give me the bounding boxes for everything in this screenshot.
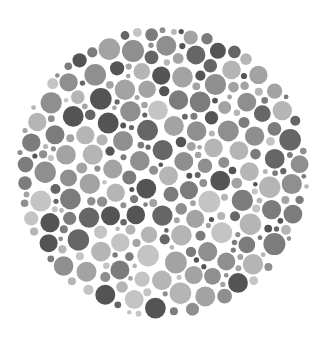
plate-dot xyxy=(115,226,120,231)
plate-dot xyxy=(234,110,240,116)
plate-dot xyxy=(55,73,60,78)
plate-dot xyxy=(160,27,166,33)
plate-dot xyxy=(245,126,264,145)
plate-dot xyxy=(106,81,114,89)
plate-dot xyxy=(77,262,97,282)
plate-dot xyxy=(84,64,106,86)
plate-dot xyxy=(126,74,131,79)
plate-dot xyxy=(22,133,40,151)
plate-dot xyxy=(60,73,78,91)
plate-dot xyxy=(265,149,285,169)
plate-dot xyxy=(79,207,99,227)
plate-dot xyxy=(35,162,56,183)
plate-dot xyxy=(121,31,130,40)
plate-dot xyxy=(264,263,272,271)
plate-dot xyxy=(218,120,239,141)
plate-dot xyxy=(65,63,73,71)
plate-dot xyxy=(85,109,96,120)
plate-dot xyxy=(76,162,87,173)
plate-dots xyxy=(17,27,308,318)
plate-dot xyxy=(141,102,148,109)
plate-dot xyxy=(80,80,85,85)
plate-dot xyxy=(56,145,76,165)
plate-dot xyxy=(287,236,292,241)
plate-dot xyxy=(17,150,22,155)
plate-dot xyxy=(126,64,132,70)
plate-dot xyxy=(237,254,243,260)
plate-dot xyxy=(80,174,100,194)
plate-dot xyxy=(132,239,140,247)
plate-dot xyxy=(39,150,47,158)
plate-dot xyxy=(229,167,237,175)
plate-dot xyxy=(264,225,272,233)
plate-dot xyxy=(171,225,192,246)
plate-dot xyxy=(97,134,108,145)
plate-dot xyxy=(112,252,117,257)
plate-dot xyxy=(304,184,309,189)
plate-dot xyxy=(186,247,196,257)
plate-dot xyxy=(279,129,301,151)
plate-dot xyxy=(64,98,69,103)
plate-dot xyxy=(190,113,197,120)
plate-dot xyxy=(217,253,235,271)
plate-dot xyxy=(143,288,151,296)
plate-dot xyxy=(228,273,248,293)
plate-dot xyxy=(159,86,169,96)
plate-dot xyxy=(228,82,239,93)
plate-dot xyxy=(209,131,215,137)
plate-dot xyxy=(199,179,207,187)
plate-dot xyxy=(231,178,242,189)
plate-dot xyxy=(122,40,144,62)
plate-dot xyxy=(97,196,107,206)
plate-dot xyxy=(156,36,176,56)
plate-dot xyxy=(138,81,155,98)
plate-dot xyxy=(252,205,260,213)
plate-dot xyxy=(127,206,146,225)
plate-dot xyxy=(149,166,158,175)
plate-dot xyxy=(230,141,249,160)
plate-dot xyxy=(172,67,193,88)
plate-dot xyxy=(134,271,149,286)
plate-dot xyxy=(46,125,65,144)
plate-dot xyxy=(280,168,286,174)
plate-dot xyxy=(261,97,268,104)
plate-dot xyxy=(287,152,293,158)
plate-dot xyxy=(159,163,164,168)
plate-dot xyxy=(115,80,135,100)
plate-dot xyxy=(152,67,170,85)
plate-dot xyxy=(240,53,252,65)
plate-dot xyxy=(59,208,64,213)
plate-dot xyxy=(110,61,124,75)
plate-dot xyxy=(235,265,241,271)
plate-dot xyxy=(170,245,175,250)
plate-dot xyxy=(192,82,200,90)
plate-dot xyxy=(137,120,158,141)
plate-dot xyxy=(196,231,206,241)
plate-dot xyxy=(210,43,226,59)
plate-dot xyxy=(197,145,202,150)
plate-dot xyxy=(129,187,134,192)
plate-dot xyxy=(87,197,95,205)
plate-dot xyxy=(186,173,192,179)
plate-dot xyxy=(159,166,178,185)
plate-dot xyxy=(82,103,88,109)
plate-dot xyxy=(152,271,172,291)
plate-dot xyxy=(112,105,117,110)
plate-dot xyxy=(126,225,136,235)
plate-dot xyxy=(180,181,198,199)
plate-dot xyxy=(301,174,306,179)
plate-dot xyxy=(87,47,97,57)
plate-dot xyxy=(24,211,38,225)
plate-dot xyxy=(176,137,187,148)
plate-dot xyxy=(295,196,303,204)
plate-dot xyxy=(224,273,229,278)
plate-dot xyxy=(205,111,218,124)
plate-dot xyxy=(58,245,66,253)
plate-dot xyxy=(102,180,107,185)
plate-dot xyxy=(282,174,302,194)
plate-dot xyxy=(198,159,212,173)
plate-dot xyxy=(195,71,205,81)
plate-dot xyxy=(163,291,168,296)
plate-dot xyxy=(278,218,284,224)
plate-dot xyxy=(68,277,76,285)
